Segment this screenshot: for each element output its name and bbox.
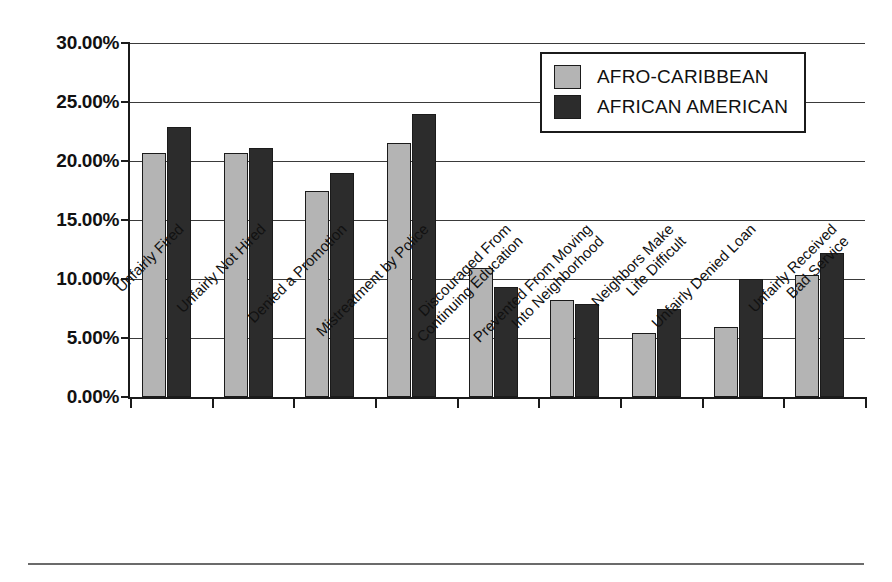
x-axis-tick-mark <box>293 397 295 408</box>
footer-rule <box>28 563 864 565</box>
legend-entry: AFRO-CARIBBEAN <box>554 62 788 92</box>
y-axis-tick-label: 15.00% <box>56 209 130 231</box>
x-axis-tick-mark <box>212 397 214 408</box>
y-axis-tick-mark <box>121 160 130 162</box>
x-axis-tick-mark <box>538 397 540 408</box>
bar <box>249 148 273 397</box>
y-axis-tick-mark <box>121 396 130 398</box>
y-axis-tick-mark <box>121 219 130 221</box>
legend-label: AFRO-CARIBBEAN <box>597 66 769 88</box>
x-axis-tick-mark <box>457 397 459 408</box>
x-axis-tick-mark <box>702 397 704 408</box>
bar <box>820 253 844 397</box>
y-axis-tick-label: 25.00% <box>56 91 130 113</box>
legend-entry: AFRICAN AMERICAN <box>554 92 788 122</box>
bar <box>224 153 248 397</box>
bar-chart-figure: 0.00%5.00%10.00%15.00%20.00%25.00%30.00%… <box>0 0 892 582</box>
legend-label: AFRICAN AMERICAN <box>597 96 788 118</box>
figure-caption-cropped <box>0 0 892 4</box>
bar <box>412 114 436 397</box>
y-axis-tick-mark <box>121 101 130 103</box>
y-axis-tick-label: 20.00% <box>56 150 130 172</box>
bar <box>142 153 166 397</box>
x-axis-tick-mark <box>783 397 785 408</box>
bar <box>305 191 329 398</box>
x-axis-tick-mark <box>375 397 377 408</box>
chart-legend: AFRO-CARIBBEANAFRICAN AMERICAN <box>540 52 806 133</box>
bar <box>167 127 191 397</box>
bar <box>330 173 354 397</box>
y-axis-tick-mark <box>121 42 130 44</box>
x-axis-tick-mark <box>620 397 622 408</box>
y-axis-tick-mark <box>121 337 130 339</box>
y-axis-tick-label: 30.00% <box>56 32 130 54</box>
legend-swatch-icon <box>554 65 581 89</box>
legend-swatch-icon <box>554 95 581 119</box>
x-axis-tick-mark <box>130 397 132 408</box>
x-axis-tick-mark <box>865 397 867 408</box>
